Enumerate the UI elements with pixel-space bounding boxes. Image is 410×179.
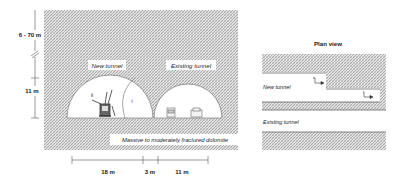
cross-section: New tunnel Existing tunnel ii i Massive …: [19, 10, 238, 175]
section-i-label: i: [131, 98, 132, 104]
plan-rock-lower: [262, 132, 386, 150]
section-ii-label: ii: [91, 92, 93, 98]
depth-label: 6 - 70 m: [19, 32, 41, 38]
height-label: 11 m: [25, 88, 38, 94]
dimension-3m: 3 m: [145, 169, 155, 175]
new-tunnel-label: New tunnel: [92, 62, 124, 69]
existing-tunnel-label: Existing tunnel: [171, 62, 212, 69]
plan-i-label: i: [363, 89, 364, 94]
plan-existing-tunnel-label: Existing tunnel: [263, 119, 300, 125]
vertical-dimension: [31, 10, 39, 118]
plan-new-tunnel-label: New tunnel: [263, 84, 291, 90]
dimension-18m: 18 m: [101, 169, 115, 175]
plan-view: Plan view New tunnel ii i Existing tunne…: [262, 40, 386, 150]
rock-mass-hatch: [44, 10, 238, 150]
tunnel-diagram: New tunnel Existing tunnel ii i Massive …: [0, 0, 410, 179]
plan-view-title: Plan view: [314, 40, 342, 47]
plan-ii-label: ii: [313, 75, 315, 80]
vehicle-icon: [167, 108, 175, 117]
horizontal-dimension: [72, 156, 208, 164]
dimension-11m: 11 m: [175, 169, 188, 175]
rock-type-label: Massive to moderately fractured dolomite: [122, 137, 229, 143]
